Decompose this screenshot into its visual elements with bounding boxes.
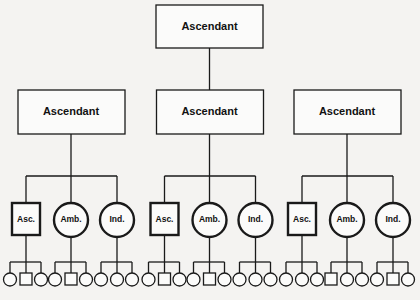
connector-lines [10, 48, 408, 273]
descendant-circle [4, 273, 17, 286]
branch-label: Ascendant [319, 105, 376, 117]
descendant-circle [341, 273, 354, 286]
descendant-square [387, 273, 399, 285]
descendant-square [20, 273, 32, 285]
descendant-circle [264, 273, 277, 286]
descendant-circle [142, 273, 155, 286]
child-label: Ind. [385, 214, 400, 224]
descendant-circle [233, 273, 246, 286]
descendant-circle [95, 273, 108, 286]
child-node-ind: Ind. [100, 203, 134, 237]
descendant-circle [80, 273, 93, 286]
descendant-circle [280, 273, 293, 286]
descendant-square [204, 273, 216, 285]
lineage-diagram: Ascendant AscendantAsc.Amb.Ind.Ascendant… [0, 0, 420, 300]
branch-node: Ascendant [157, 90, 264, 134]
branch-node: Ascendant [18, 90, 125, 134]
branch-node: Ascendant [294, 90, 401, 134]
child-label: Amb. [60, 214, 81, 224]
child-node-asc: Asc. [12, 203, 40, 235]
descendant-circle [249, 273, 262, 286]
descendant-circle [126, 273, 139, 286]
branch-label: Ascendant [181, 105, 238, 117]
descendant-circle [402, 273, 415, 286]
root-node: Ascendant [156, 5, 263, 48]
child-label: Asc. [156, 214, 174, 224]
child-node-ind: Ind. [376, 203, 410, 237]
root-label: Ascendant [181, 20, 238, 32]
descendant-circle [371, 273, 384, 286]
child-node-asc: Asc. [288, 203, 316, 235]
child-label: Ind. [109, 214, 124, 224]
descendant-circle [296, 273, 309, 286]
descendant-circle [356, 273, 369, 286]
descendant-circle [311, 273, 324, 286]
descendant-circle [187, 273, 200, 286]
child-label: Amb. [199, 214, 220, 224]
descendant-circle [173, 273, 186, 286]
descendant-square [159, 273, 171, 285]
child-node-asc: Asc. [151, 203, 179, 235]
descendant-circle [111, 273, 124, 286]
descendant-square [65, 273, 77, 285]
child-label: Amb. [336, 214, 357, 224]
child-label: Asc. [293, 214, 311, 224]
child-node-amb: Amb. [54, 203, 88, 237]
descendant-square [325, 273, 337, 285]
descendant-circle [49, 273, 62, 286]
child-node-ind: Ind. [239, 203, 273, 237]
descendant-circle [35, 273, 48, 286]
child-label: Asc. [17, 214, 35, 224]
descendant-circle [218, 273, 231, 286]
child-node-amb: Amb. [193, 203, 227, 237]
child-label: Ind. [248, 214, 263, 224]
child-node-amb: Amb. [330, 203, 364, 237]
branch-label: Ascendant [43, 105, 100, 117]
